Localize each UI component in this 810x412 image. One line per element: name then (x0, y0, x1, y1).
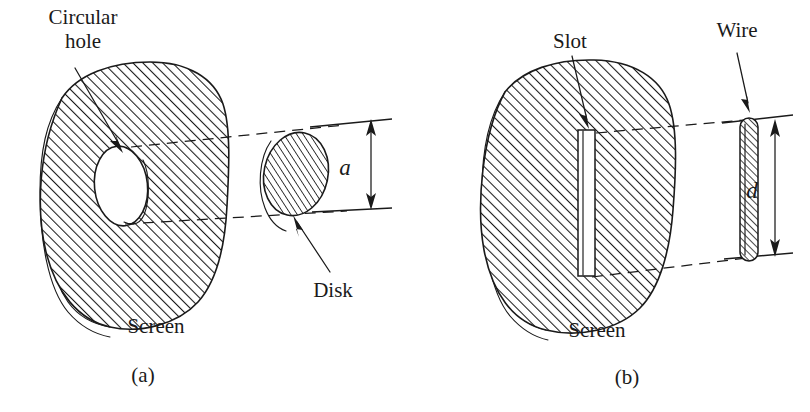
screen-b-label: Screen (568, 318, 626, 342)
panel-a-caption: (a) (131, 363, 154, 387)
dimension-a-label: a (339, 155, 351, 180)
screen-a-hatch-fill (40, 62, 228, 329)
figure-root: a Circular hole Disk Screen (a) (0, 0, 810, 412)
dimension-d-label: d (746, 178, 758, 203)
circular-hole-label-line1: Circular (49, 5, 118, 29)
wire-label: Wire (716, 18, 757, 42)
diagram-canvas: a Circular hole Disk Screen (a) (0, 0, 810, 412)
slot-opening (578, 130, 595, 276)
disk-label: Disk (313, 278, 353, 302)
screen-a-label: Screen (127, 314, 185, 338)
slot-label: Slot (553, 29, 587, 53)
circular-hole-label-line2: hole (65, 29, 101, 53)
slot (578, 130, 595, 276)
panel-b-caption: (b) (615, 365, 640, 389)
